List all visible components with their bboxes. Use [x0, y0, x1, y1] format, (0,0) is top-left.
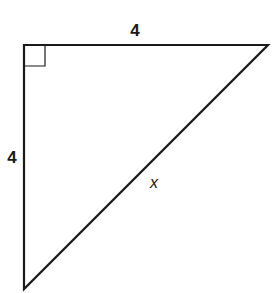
right-triangle-diagram — [0, 0, 275, 293]
triangle-outline — [24, 45, 268, 289]
top-side-length-label: 4 — [130, 22, 139, 39]
right-angle-marker — [24, 45, 45, 66]
left-side-length-label: 4 — [7, 149, 16, 166]
hypotenuse-label: x — [150, 175, 158, 191]
